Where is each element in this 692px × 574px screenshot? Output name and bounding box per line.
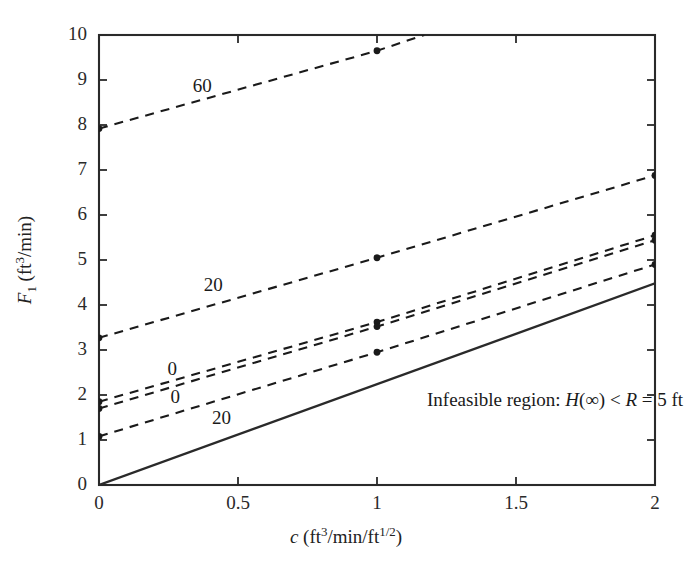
data-point-0-lower — [652, 237, 659, 244]
data-point-20-lower — [374, 349, 381, 356]
data-point-0-lower — [96, 405, 103, 412]
x-tick-label: 1 — [347, 492, 407, 514]
x-tick-label: 0.5 — [208, 492, 268, 514]
data-point-20-lower — [96, 433, 103, 440]
data-point-60 — [96, 125, 103, 132]
x-tick-label: 2 — [625, 492, 685, 514]
y-tick-label: 9 — [37, 68, 87, 90]
chart-figure: F1 (ft3/min) c (ft3/min/ft1/2) 00.511.52… — [0, 0, 692, 574]
plot-canvas — [0, 0, 692, 574]
y-tick-label: 4 — [37, 293, 87, 315]
y-tick-label: 5 — [37, 248, 87, 270]
x-tick-label: 1.5 — [486, 492, 546, 514]
data-point-60 — [374, 47, 381, 54]
y-tick-label: 6 — [37, 203, 87, 225]
curve-label-60: 60 — [193, 75, 212, 97]
x-axis-label: c (ft3/min/ft1/2) — [0, 524, 692, 548]
y-axis-label: F1 (ft3/min) — [12, 216, 40, 304]
curve-label-0-upper: 0 — [168, 358, 178, 380]
y-tick-label: 0 — [37, 473, 87, 495]
curve-label-0-lower: 0 — [170, 386, 180, 408]
data-point-20-upper — [374, 254, 381, 261]
y-tick-label: 2 — [37, 383, 87, 405]
data-point-0-upper — [96, 398, 103, 405]
data-point-20-upper — [652, 172, 659, 179]
y-tick-label: 3 — [37, 338, 87, 360]
x-tick-label: 0 — [69, 492, 129, 514]
y-tick-label: 1 — [37, 428, 87, 450]
data-point-0-lower — [374, 323, 381, 330]
data-point-20-upper — [96, 334, 103, 341]
curve-label-20-upper: 20 — [204, 274, 223, 296]
y-tick-label: 7 — [37, 158, 87, 180]
y-tick-label: 8 — [37, 113, 87, 135]
data-point-20-lower — [652, 261, 659, 268]
curve-label-20-lower: 20 — [212, 407, 231, 429]
infeasible-region-note: Infeasible region: H(∞) < R = 5 ft — [427, 389, 683, 411]
y-tick-label: 10 — [37, 23, 87, 45]
